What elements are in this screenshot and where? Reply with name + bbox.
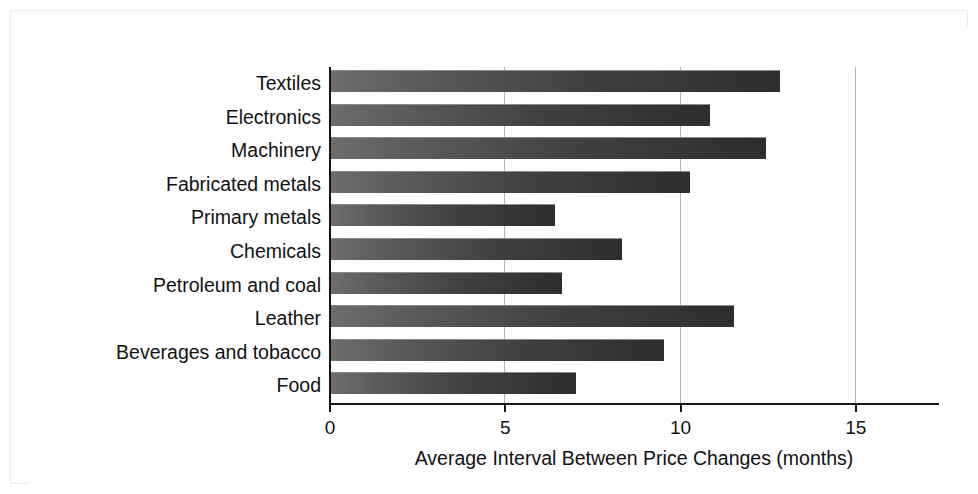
x-tick-5 <box>504 403 506 412</box>
x-tick-15 <box>855 403 857 412</box>
x-tick-0 <box>329 403 331 412</box>
bar-chart: Average Interval Between Price Changes (… <box>29 27 971 489</box>
category-label: Leather <box>255 305 321 332</box>
x-tick-label-15: 15 <box>845 416 866 440</box>
x-tick-label-5: 5 <box>500 416 511 440</box>
bar <box>331 372 576 394</box>
chart-row: Chemicals <box>29 235 971 269</box>
chart-row: Textiles <box>29 67 971 101</box>
category-label: Electronics <box>226 104 321 131</box>
bar <box>331 238 622 260</box>
category-label: Chemicals <box>230 238 321 265</box>
chart-row: Beverages and tobacco <box>29 336 971 370</box>
bar <box>331 204 555 226</box>
x-axis-line <box>329 403 939 405</box>
category-label: Machinery <box>231 137 321 164</box>
chart-row: Primary metals <box>29 201 971 235</box>
bar <box>331 70 780 92</box>
bar <box>331 272 562 294</box>
category-label: Primary metals <box>191 204 321 231</box>
x-axis-title: Average Interval Between Price Changes (… <box>329 447 939 470</box>
bar <box>331 339 664 361</box>
chart-row: Leather <box>29 302 971 336</box>
chart-row: Petroleum and coal <box>29 269 971 303</box>
chart-row: Electronics <box>29 101 971 135</box>
bar <box>331 305 734 327</box>
x-tick-label-10: 10 <box>670 416 691 440</box>
plot-surface: Average Interval Between Price Changes (… <box>29 27 971 489</box>
figure-root: Average Interval Between Price Changes (… <box>0 0 978 494</box>
category-label: Fabricated metals <box>166 171 321 198</box>
scan-page-frame: Average Interval Between Price Changes (… <box>10 10 968 484</box>
category-label: Beverages and tobacco <box>116 339 321 366</box>
bar <box>331 104 710 126</box>
category-label: Textiles <box>256 70 321 97</box>
chart-row: Food <box>29 369 971 403</box>
category-label: Food <box>277 372 321 399</box>
bar <box>331 137 766 159</box>
bar <box>331 171 690 193</box>
chart-row: Fabricated metals <box>29 168 971 202</box>
category-label: Petroleum and coal <box>153 272 321 299</box>
chart-row: Machinery <box>29 134 971 168</box>
x-tick-label-0: 0 <box>325 416 336 440</box>
x-tick-10 <box>680 403 682 412</box>
